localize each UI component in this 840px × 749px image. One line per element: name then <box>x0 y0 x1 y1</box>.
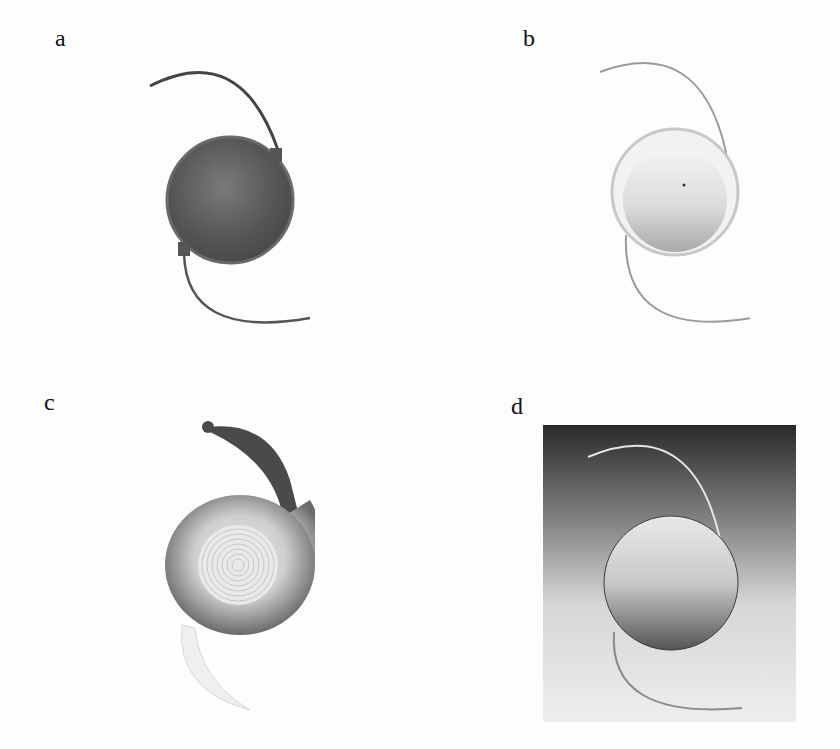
panel-label-b: b <box>523 26 535 50</box>
panel-b-lens-image <box>590 50 750 340</box>
panel-label-c: c <box>44 390 55 414</box>
panel-d-lens-image <box>543 425 796 722</box>
panel-a-lens-image <box>140 55 320 345</box>
panel-c-lens-image <box>165 410 315 720</box>
panel-label-a: a <box>55 26 66 50</box>
panel-label-d: d <box>511 394 523 418</box>
